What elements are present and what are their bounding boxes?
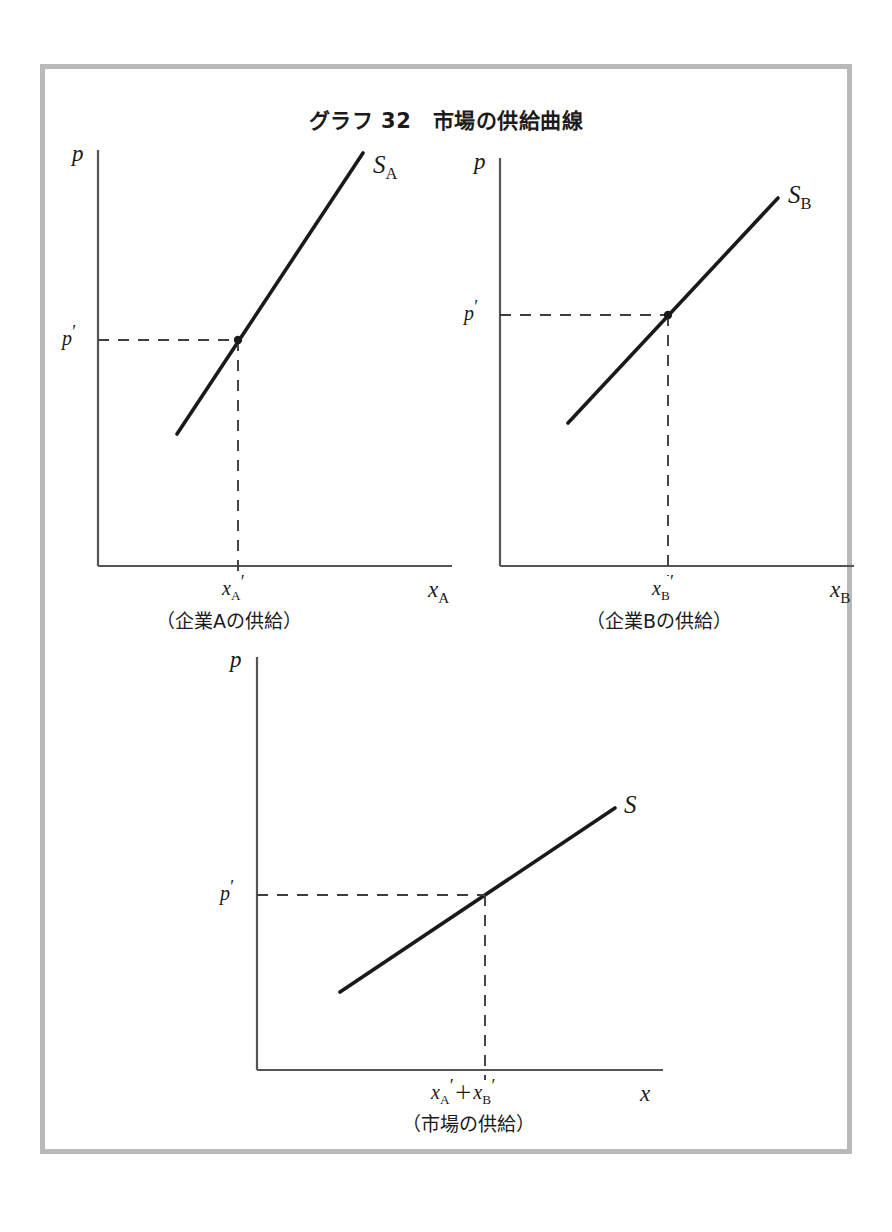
y-axis-label-b: p: [474, 150, 486, 173]
price-level-label-a: p′: [62, 328, 76, 348]
curve-label-a: SA: [373, 152, 397, 183]
x-tick-prime-b: ′: [670, 572, 674, 592]
x-tick-letter-a: x: [222, 577, 231, 599]
x-tick-second-subscript-market: B: [482, 1092, 491, 1107]
price-symbol-market: p: [220, 882, 230, 904]
y-axis-label-market: p: [230, 648, 242, 671]
x-axis-letter-a: x: [428, 577, 438, 602]
price-symbol-a: p: [62, 327, 72, 349]
panel-caption-market: （市場の供給）: [402, 1115, 535, 1134]
x-tick-subscript-b: B: [661, 588, 670, 603]
chart-market-svg: [218, 645, 688, 1145]
x-tick-first-subscript-market: A: [440, 1092, 450, 1107]
supply-curve-b: [568, 198, 778, 423]
price-level-label-market: p′: [220, 883, 234, 903]
curve-letter-a: S: [373, 151, 386, 178]
equilibrium-point-a: [234, 336, 242, 344]
curve-letter-market: S: [624, 791, 637, 818]
x-tick-first-prime-market: ′: [450, 1076, 454, 1096]
x-tick-label-a: xA′: [222, 578, 244, 602]
x-tick-prime-a: ′: [241, 572, 245, 592]
chart-panel-firm-b: p p′ SB xB′ xB （企業Bの供給）: [462, 140, 882, 640]
supply-curve-market: [340, 808, 615, 992]
x-tick-label-market: xA′＋xB′: [431, 1082, 495, 1106]
x-axis-subscript-a: A: [438, 589, 449, 606]
panel-caption-firm-b: （企業Bの供給）: [586, 612, 732, 631]
curve-letter-b: S: [788, 181, 801, 208]
price-symbol-b: p: [464, 302, 474, 324]
figure-title: グラフ 32 市場の供給曲線: [0, 104, 892, 134]
price-prime-a: ′: [72, 322, 76, 342]
price-prime-b: ′: [474, 297, 478, 317]
chart-a-svg: [60, 140, 480, 640]
chart-panel-firm-a: p p′ SA xA′ xA （企業Aの供給）: [60, 140, 480, 640]
x-axis-letter-market: x: [640, 1081, 650, 1106]
x-axis-subscript-b: B: [840, 589, 850, 606]
chart-b-svg: [462, 140, 882, 640]
x-tick-label-b: xB′: [652, 578, 674, 602]
x-axis-label-a: xA: [428, 578, 449, 605]
x-tick-first-letter-market: x: [431, 1081, 440, 1103]
x-tick-second-letter-market: x: [473, 1081, 482, 1103]
price-prime-market: ′: [230, 877, 234, 897]
equilibrium-point-b: [664, 311, 672, 319]
curve-subscript-b: B: [801, 194, 812, 213]
x-axis-label-b: xB: [830, 578, 850, 605]
curve-label-b: SB: [788, 182, 812, 213]
chart-panel-market: p p′ S xA′＋xB′ x （市場の供給）: [218, 645, 688, 1145]
supply-curve-a: [177, 153, 363, 434]
price-level-label-b: p′: [464, 303, 478, 323]
y-axis-label-a: p: [72, 142, 84, 165]
curve-label-market: S: [624, 792, 637, 823]
x-tick-letter-b: x: [652, 577, 661, 599]
x-tick-plus-operator-market: ＋: [453, 1083, 473, 1103]
x-tick-subscript-a: A: [231, 588, 241, 603]
x-axis-label-market: x: [640, 1082, 650, 1109]
curve-subscript-a: A: [386, 164, 398, 183]
x-axis-letter-b: x: [830, 577, 840, 602]
panel-caption-firm-a: （企業Aの供給）: [156, 612, 302, 631]
x-tick-second-prime-market: ′: [491, 1076, 495, 1096]
